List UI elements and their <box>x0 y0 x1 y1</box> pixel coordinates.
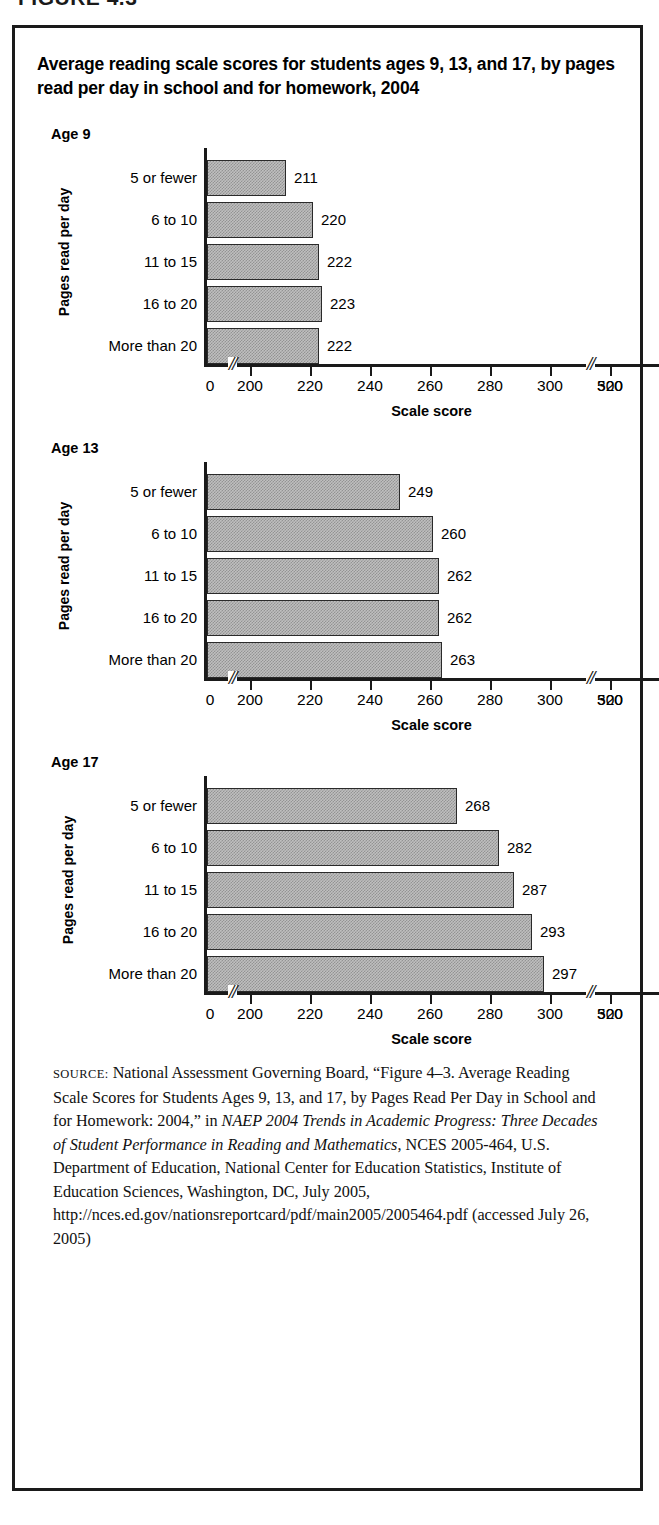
category-label: 6 to 10 <box>85 513 197 555</box>
x-axis-tick <box>550 681 552 690</box>
x-axis-tick <box>310 681 312 690</box>
x-axis-tick <box>250 995 252 1004</box>
category-label: 6 to 10 <box>85 199 197 241</box>
x-axis-tick-label: 200 <box>237 691 263 709</box>
bar-value-label: 293 <box>540 914 565 950</box>
axis-break-icon: // <box>586 357 595 371</box>
bar <box>207 830 499 866</box>
x-axis-tick <box>490 681 492 690</box>
bar-value-label: 220 <box>321 202 346 238</box>
x-axis-tick-label: 500 <box>597 377 623 395</box>
x-axis-line: //// <box>204 992 659 995</box>
bar-value-label: 211 <box>294 160 318 196</box>
source-label: SOURCE: <box>53 1067 109 1081</box>
bar-value-label: 287 <box>522 872 547 908</box>
x-axis-tick <box>550 995 552 1004</box>
bar-value-label: 262 <box>447 600 472 636</box>
bar <box>207 788 457 824</box>
x-axis-tick <box>610 681 612 690</box>
bar <box>207 872 514 908</box>
bar <box>207 202 313 238</box>
x-axis-tick-label: 220 <box>297 1005 323 1023</box>
x-axis-tick <box>550 367 552 376</box>
bar-value-label: 222 <box>327 244 352 280</box>
x-axis-tick-label: 260 <box>417 691 443 709</box>
chart-age-9-categories: 5 or fewer 6 to 10 11 to 15 16 to 20 Mor… <box>85 157 197 367</box>
x-axis-tick <box>250 681 252 690</box>
x-axis-tick-label: 500 <box>597 1005 623 1023</box>
bar <box>207 558 439 594</box>
x-axis-tick-label: 0 <box>206 691 215 709</box>
category-label: 11 to 15 <box>85 241 197 283</box>
chart-age-13: Age 13 Pages read per day 5 or fewer 6 t… <box>37 440 618 740</box>
category-label: 16 to 20 <box>85 283 197 325</box>
x-axis-tick-label: 500 <box>597 691 623 709</box>
x-axis-line: //// <box>204 678 659 681</box>
chart-age-13-bars: 249 260 262 262 <box>204 462 634 680</box>
x-axis-tick <box>250 367 252 376</box>
x-axis-tick-label: 240 <box>357 1005 383 1023</box>
bar <box>207 516 433 552</box>
bar-value-label: 222 <box>327 328 352 364</box>
x-axis-tick-label: 220 <box>297 377 323 395</box>
x-axis-tick <box>430 367 432 376</box>
x-axis-title: Scale score <box>204 403 659 419</box>
x-axis-tick <box>370 367 372 376</box>
figure-title: Average reading scale scores for student… <box>37 52 618 100</box>
x-axis-tick-label: 280 <box>477 377 503 395</box>
chart-age-17-label: Age 17 <box>51 754 618 770</box>
x-axis-tick-label: 280 <box>477 1005 503 1023</box>
x-axis-title: Scale score <box>204 717 659 733</box>
bar <box>207 956 544 992</box>
bar-value-label: 249 <box>408 474 433 510</box>
x-axis-tick-label: 260 <box>417 1005 443 1023</box>
y-axis-title: Pages read per day <box>56 177 72 327</box>
x-axis-tick-label: 240 <box>357 691 383 709</box>
axis-break-icon: // <box>586 671 595 685</box>
bar <box>207 160 286 196</box>
x-axis-tick-label: 260 <box>417 377 443 395</box>
chart-age-17-categories: 5 or fewer 6 to 10 11 to 15 16 to 20 Mor… <box>85 785 197 995</box>
x-axis-tick-label: 0 <box>206 1005 215 1023</box>
bar <box>207 642 442 678</box>
axis-break-icon: // <box>586 985 595 999</box>
bar-value-label: 282 <box>507 830 532 866</box>
x-axis-tick <box>610 995 612 1004</box>
category-label: 11 to 15 <box>85 869 197 911</box>
chart-age-17-plot: Pages read per day 5 or fewer 6 to 10 11… <box>37 776 618 1031</box>
chart-age-13-plot: Pages read per day 5 or fewer 6 to 10 11… <box>37 462 618 717</box>
x-axis-tick-label: 240 <box>357 377 383 395</box>
category-label: More than 20 <box>85 639 197 681</box>
bar <box>207 474 400 510</box>
bar-value-label: 262 <box>447 558 472 594</box>
bar-value-label: 260 <box>441 516 466 552</box>
x-axis-tick <box>370 995 372 1004</box>
x-axis-tick-label: 300 <box>537 691 563 709</box>
category-label: More than 20 <box>85 953 197 995</box>
bar-value-label: 297 <box>552 956 577 992</box>
category-label: 5 or fewer <box>85 157 197 199</box>
chart-age-9-plot: Pages read per day 5 or fewer 6 to 10 11… <box>37 148 618 403</box>
bar-value-label: 263 <box>450 642 475 678</box>
category-label: 5 or fewer <box>85 471 197 513</box>
x-axis-tick <box>430 995 432 1004</box>
category-label: 16 to 20 <box>85 597 197 639</box>
bar <box>207 600 439 636</box>
category-label: 11 to 15 <box>85 555 197 597</box>
x-axis-tick <box>490 995 492 1004</box>
category-label: More than 20 <box>85 325 197 367</box>
x-axis-tick-label: 0 <box>206 377 215 395</box>
chart-age-17: Age 17 Pages read per day 5 or fewer 6 t… <box>37 754 618 1054</box>
x-axis-tick <box>430 681 432 690</box>
axis-break-icon: // <box>228 671 237 685</box>
x-axis-tick-label: 300 <box>537 377 563 395</box>
x-axis-tick-label: 300 <box>537 1005 563 1023</box>
chart-age-9: Age 9 Pages read per day 5 or fewer 6 to… <box>37 126 618 426</box>
axis-break-icon: // <box>228 985 237 999</box>
chart-age-17-bars: 268 282 287 293 <box>204 776 634 994</box>
bar-value-label: 268 <box>465 788 490 824</box>
category-label: 5 or fewer <box>85 785 197 827</box>
x-axis-tick-label: 280 <box>477 691 503 709</box>
bar-value-label: 223 <box>330 286 355 322</box>
chart-age-13-categories: 5 or fewer 6 to 10 11 to 15 16 to 20 Mor… <box>85 471 197 681</box>
